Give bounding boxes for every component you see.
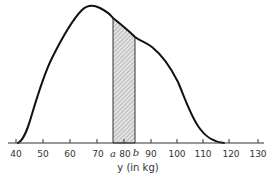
tick-label-110: 110 [194, 149, 211, 159]
density-chart: 40 50 60 70 80 90 100 110 120 130 a b y … [0, 0, 271, 178]
tick-label-100: 100 [168, 149, 185, 159]
tick-label-50: 50 [37, 149, 49, 159]
tick-label-130: 130 [249, 149, 266, 159]
tick-label-90: 90 [145, 149, 157, 159]
tick-label-120: 120 [222, 149, 239, 159]
label-a: a [110, 148, 116, 159]
tick-label-80: 80 [119, 149, 131, 159]
tick-label-70: 70 [92, 149, 104, 159]
x-axis-title: y (in kg) [117, 162, 158, 173]
tick-label-60: 60 [64, 149, 76, 159]
label-b: b [133, 147, 139, 158]
shaded-region-a-b [113, 18, 135, 143]
tick-label-40: 40 [10, 149, 22, 159]
